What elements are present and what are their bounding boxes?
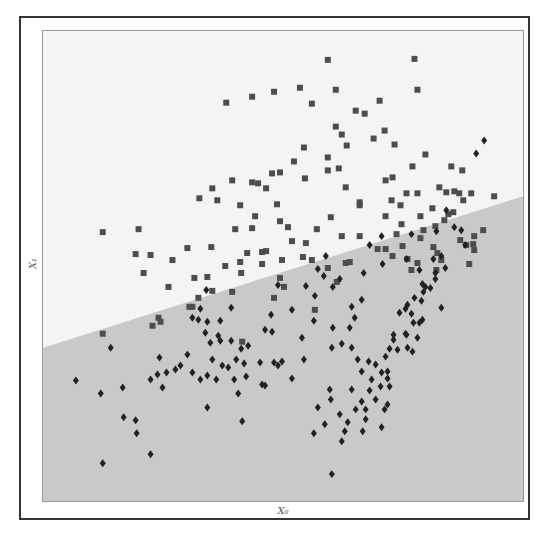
- data-point-square: [289, 238, 295, 244]
- data-point-square: [375, 246, 381, 252]
- data-point-square: [271, 295, 277, 301]
- data-point-square: [339, 233, 345, 239]
- x-axis-label: X₀: [273, 505, 293, 516]
- data-point-square: [325, 265, 331, 271]
- data-point-square: [222, 263, 228, 269]
- data-point-square: [325, 57, 331, 63]
- data-point-square: [314, 226, 320, 232]
- data-point-square: [441, 217, 447, 223]
- data-point-square: [269, 170, 275, 176]
- data-point-square: [232, 226, 238, 232]
- data-point-square: [411, 56, 417, 62]
- data-point-square: [158, 319, 164, 325]
- data-point-square: [255, 180, 261, 186]
- data-point-square: [281, 284, 287, 290]
- data-point-square: [383, 213, 389, 219]
- data-point-square: [450, 209, 456, 215]
- data-point-square: [195, 295, 201, 301]
- y-axis-label: X₁: [27, 256, 38, 272]
- data-point-square: [259, 261, 265, 267]
- data-point-square: [301, 145, 307, 151]
- data-point-square: [408, 267, 414, 273]
- data-point-square: [343, 184, 349, 190]
- data-point-square: [383, 246, 389, 252]
- data-point-square: [244, 250, 250, 256]
- data-point-square: [383, 177, 389, 183]
- data-point-square: [457, 237, 463, 243]
- data-point-square: [208, 244, 214, 250]
- data-point-square: [249, 94, 255, 100]
- data-point-square: [357, 202, 363, 208]
- data-point-square: [422, 151, 428, 157]
- data-point-square: [436, 184, 442, 190]
- data-point-square: [223, 100, 229, 106]
- data-point-square: [480, 227, 486, 233]
- data-point-square: [249, 179, 255, 185]
- data-point-square: [414, 260, 420, 266]
- data-point-square: [328, 214, 334, 220]
- plot-area: [42, 30, 524, 502]
- data-point-square: [390, 174, 396, 180]
- data-point-square: [336, 165, 342, 171]
- data-point-square: [279, 257, 285, 263]
- data-point-square: [399, 221, 405, 227]
- data-point-square: [229, 289, 235, 295]
- data-point-square: [430, 244, 436, 250]
- data-point-square: [414, 190, 420, 196]
- data-point-square: [353, 108, 359, 114]
- data-point-square: [451, 188, 457, 194]
- data-point-square: [141, 270, 147, 276]
- data-point-square: [133, 251, 139, 257]
- data-point-square: [303, 240, 309, 246]
- data-point-square: [357, 233, 363, 239]
- data-point-square: [209, 288, 215, 294]
- data-point-square: [237, 259, 243, 265]
- data-point-square: [417, 213, 423, 219]
- data-point-square: [297, 85, 303, 91]
- data-point-square: [238, 270, 244, 276]
- data-point-square: [400, 243, 406, 249]
- data-point-square: [189, 304, 195, 310]
- data-point-square: [382, 128, 388, 134]
- data-point-square: [343, 260, 349, 266]
- data-point-square: [429, 205, 435, 211]
- data-point-square: [309, 257, 315, 263]
- data-point-square: [259, 249, 265, 255]
- data-point-square: [460, 197, 466, 203]
- data-point-square: [271, 89, 277, 95]
- data-point-square: [471, 233, 477, 239]
- data-point-square: [403, 190, 409, 196]
- data-point-square: [229, 177, 235, 183]
- data-point-square: [191, 275, 197, 281]
- data-point-square: [165, 284, 171, 290]
- data-point-square: [468, 190, 474, 196]
- data-point-square: [398, 202, 404, 208]
- data-point-square: [312, 307, 318, 313]
- data-point-square: [196, 195, 202, 201]
- data-point-square: [325, 167, 331, 173]
- data-point-square: [443, 189, 449, 195]
- data-point-square: [277, 275, 283, 281]
- data-point-square: [302, 175, 308, 181]
- data-point-square: [263, 185, 269, 191]
- data-point-square: [309, 101, 315, 107]
- data-point-square: [239, 339, 245, 345]
- data-point-square: [285, 224, 291, 230]
- data-point-square: [277, 218, 283, 224]
- data-point-square: [148, 252, 154, 258]
- data-point-square: [325, 154, 331, 160]
- data-point-square: [459, 167, 465, 173]
- data-point-square: [377, 98, 383, 104]
- data-point-square: [300, 254, 306, 260]
- scatter-plot: [43, 31, 523, 501]
- data-point-square: [491, 193, 497, 199]
- data-point-square: [169, 257, 175, 263]
- data-point-square: [100, 229, 106, 235]
- data-point-square: [344, 143, 350, 149]
- data-point-square: [448, 163, 454, 169]
- data-point-square: [136, 226, 142, 232]
- data-point-square: [100, 331, 106, 337]
- data-point-square: [417, 235, 423, 241]
- data-point-square: [466, 261, 472, 267]
- data-point-square: [432, 223, 438, 229]
